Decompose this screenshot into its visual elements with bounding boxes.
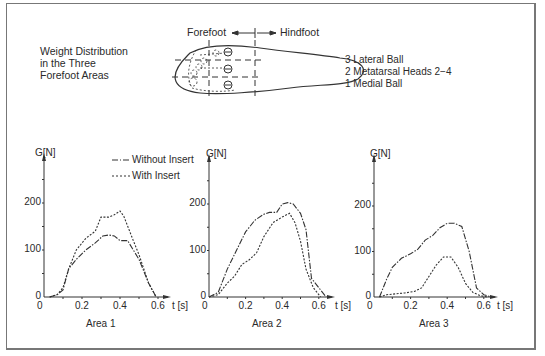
x-tick-label: 0.4 xyxy=(275,300,289,311)
legend-with-insert: With Insert xyxy=(132,170,180,181)
y-tick-label: 200 xyxy=(24,196,41,207)
x-tick-label: 0.2 xyxy=(404,300,418,311)
x-tick-label: 0 xyxy=(202,300,208,311)
x-tick-label: 0.4 xyxy=(440,300,454,311)
x-tick-label: 0.2 xyxy=(75,300,89,311)
x-tick-label: 0.6 xyxy=(312,300,326,311)
legend-without-insert: Without Insert xyxy=(132,154,194,165)
x-tick-label: 0 xyxy=(367,300,373,311)
y-tick-label: 100 xyxy=(354,245,371,256)
x-tick-label: 0.4 xyxy=(113,300,127,311)
y-tick-label: 200 xyxy=(189,197,206,208)
x-tick-label: 0.6 xyxy=(151,300,165,311)
y-tick-label: 100 xyxy=(24,243,41,254)
x-tick-label: 0 xyxy=(37,300,43,311)
x-tick-label: 0.2 xyxy=(239,300,253,311)
y-tick-label: 200 xyxy=(354,199,371,210)
x-tick-label: 0.6 xyxy=(477,300,491,311)
y-tick-label: 100 xyxy=(189,244,206,255)
